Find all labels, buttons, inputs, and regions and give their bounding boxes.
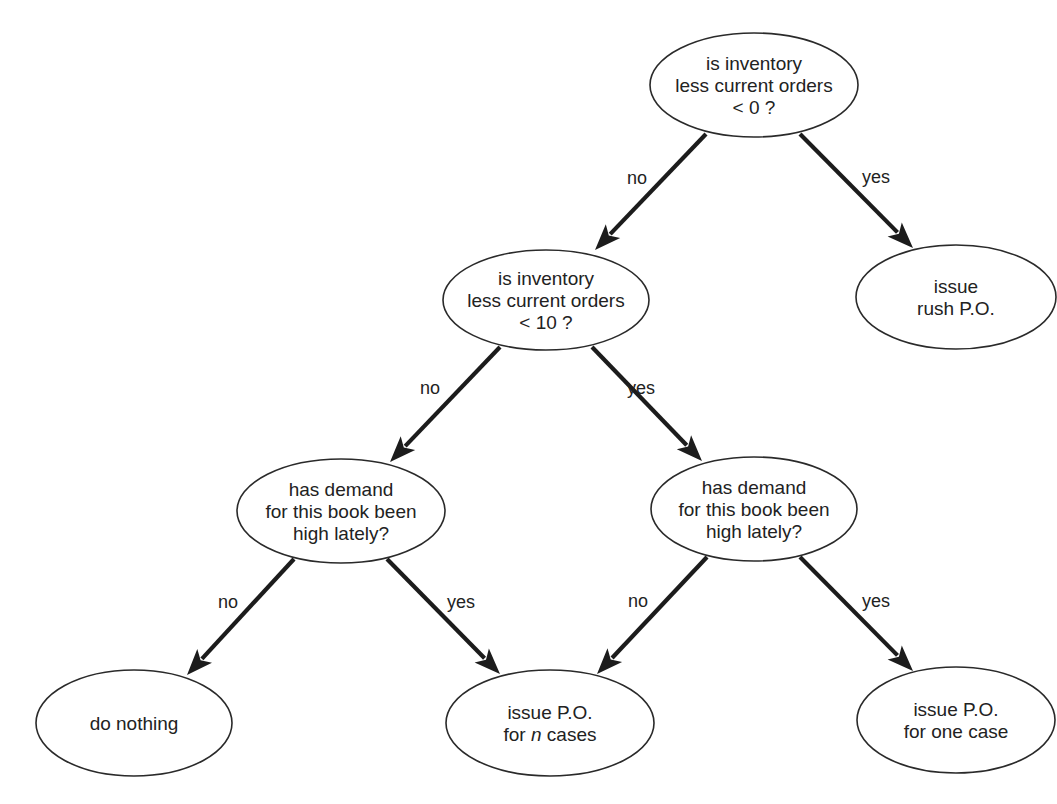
node-text-line: is inventory [706,53,803,74]
edges-layer: noyesnoyesnoyesnoyes [187,134,913,675]
decision-node-q-demand-right: has demandfor this book beenhigh lately? [651,457,857,561]
edge-label-yes: yes [447,592,475,612]
node-text-line: has demand [289,479,394,500]
ellipse-shape [857,667,1055,773]
edge-label-yes: yes [862,591,890,611]
decision-node-q-inventory-lt-0: is inventoryless current orders< 0 ? [650,33,858,137]
node-text-line: less current orders [467,290,624,311]
action-node-do-nothing: do nothing [36,670,232,776]
edge-yes-q_inventory_lt_0-to-issue_rush_po: yes [800,134,913,248]
decision-node-q-inventory-lt-10: is inventoryless current orders< 10 ? [443,250,649,350]
node-text-line: issue [934,276,978,297]
node-text-line: for this book been [265,501,416,522]
node-text-line: issue P.O. [913,699,998,720]
ellipse-shape [856,245,1056,349]
decision-tree-diagram: noyesnoyesnoyesnoyes is inventoryless cu… [0,0,1057,804]
node-text-line: high lately? [293,523,389,544]
node-text-line: for one case [904,721,1009,742]
edge-label-no: no [628,591,648,611]
edge-no-q_inventory_lt_10-to-q_demand_left: no [390,347,500,462]
edge-line [612,557,707,658]
node-text-line: < 10 ? [519,312,572,333]
edge-no-q_demand_right-to-issue_po_n_cases: no [597,557,707,674]
edge-yes-q_demand_right-to-issue_po_one_case: yes [800,557,913,671]
ellipse-shape [446,670,654,776]
edge-label-no: no [218,592,238,612]
edge-label-yes: yes [627,378,655,398]
edge-line [202,559,294,659]
edge-yes-q_demand_left-to-issue_po_n_cases: yes [387,559,500,674]
edge-line [610,134,706,234]
node-text-line: has demand [702,477,807,498]
node-text-line: rush P.O. [917,298,995,319]
action-node-issue-po-one-case: issue P.O.for one case [857,667,1055,773]
action-node-issue-rush-po: issuerush P.O. [856,245,1056,349]
node-text-line: < 0 ? [733,97,776,118]
edge-label-yes: yes [862,167,890,187]
decision-node-q-demand-left: has demandfor this book beenhigh lately? [237,459,445,563]
node-text-line: for this book been [678,499,829,520]
node-text-line: issue P.O. [507,702,592,723]
edge-label-no: no [420,378,440,398]
node-text-line: less current orders [675,75,832,96]
node-text-line: high lately? [706,521,802,542]
edge-yes-q_inventory_lt_10-to-q_demand_right: yes [592,347,702,461]
edge-no-q_demand_left-to-do_nothing: no [187,559,294,675]
action-node-issue-po-n-cases: issue P.O.for n cases [446,670,654,776]
node-text-line: do nothing [90,713,179,734]
edge-no-q_inventory_lt_0-to-q_inventory_lt_10: no [595,134,706,250]
edge-label-no: no [627,168,647,188]
node-text-line: is inventory [498,268,595,289]
node-text-line: for n cases [504,724,597,745]
